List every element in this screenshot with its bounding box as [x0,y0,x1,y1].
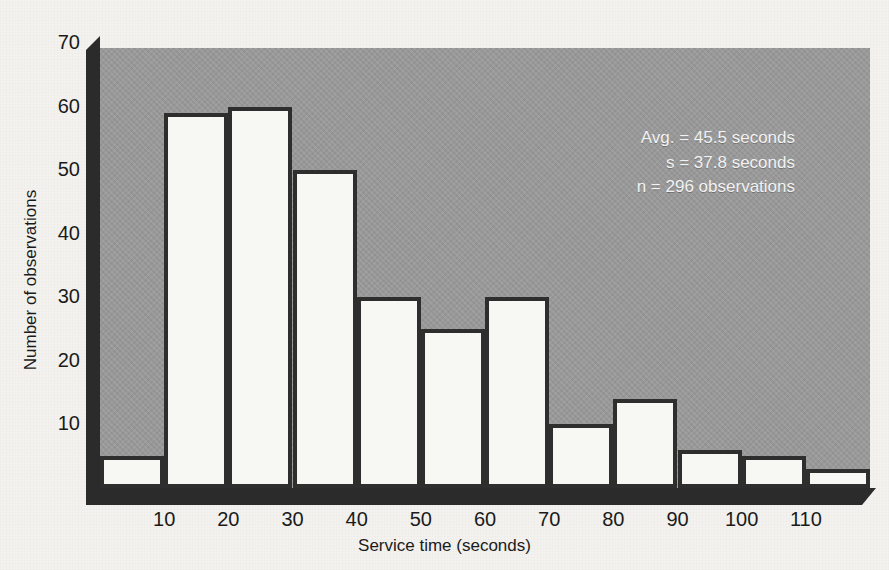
stats-annotation: Avg. = 45.5 seconds s = 37.8 seconds n =… [555,126,795,200]
histogram-figure: 10203040506070 102030405060708090100110 … [0,0,889,570]
histogram-bar [485,297,549,488]
x-axis-tick-label: 90 [648,509,708,529]
x-axis-tick-label: 80 [583,509,643,529]
histogram-bar [357,297,421,488]
x-axis-tick-label: 110 [776,509,836,529]
y-axis-tick-label: 60 [34,96,80,116]
x-axis-tick-label: 70 [519,509,579,529]
histogram-bar [678,450,742,488]
x-axis-title: Service time (seconds) [0,536,889,556]
x-axis-tick-label: 100 [712,509,772,529]
histogram-bar [613,399,677,488]
x-axis-tick-label: 20 [198,509,258,529]
histogram-bar [421,329,485,488]
histogram-bar [228,107,292,488]
x-axis-tick-label: 10 [134,509,194,529]
stats-stdev: s = 37.8 seconds [555,151,795,176]
histogram-bar [100,456,164,488]
y-axis-title: Number of observations [21,140,41,420]
stats-count: n = 296 observations [555,175,795,200]
x-axis-tick-label: 40 [327,509,387,529]
y-axis-tick-label: 70 [34,32,80,52]
histogram-bar [806,469,870,488]
y-axis-slab [86,36,100,488]
histogram-bar [742,456,806,488]
x-axis-tick-label: 60 [455,509,515,529]
stats-average: Avg. = 45.5 seconds [555,126,795,151]
x-axis-tick-label: 30 [263,509,323,529]
histogram-bar [164,113,228,488]
histogram-bar [293,170,357,488]
histogram-bar [549,424,613,488]
x-axis-slab [86,488,876,505]
x-axis-tick-label: 50 [391,509,451,529]
